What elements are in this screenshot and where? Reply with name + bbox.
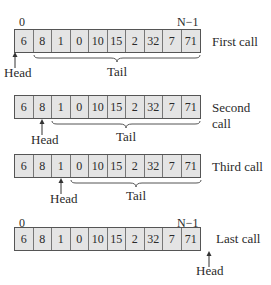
array-cell: 71 — [182, 30, 201, 52]
tail-label: Tail — [107, 64, 127, 80]
head-label: Head — [4, 65, 31, 81]
array: 6 8 1 0 10 15 2 32 7 71 — [14, 227, 201, 251]
panel-last-call: 0 N−1 6 8 1 0 10 15 2 32 7 71 Last call … — [0, 215, 271, 285]
index-start: 0 — [19, 16, 25, 28]
array-cell: 1 — [52, 228, 71, 250]
array-cell: 15 — [108, 228, 127, 250]
array-cell: 32 — [145, 96, 164, 118]
call-label: Third call — [212, 159, 263, 175]
array-cell: 0 — [71, 155, 90, 177]
head-label: Head — [31, 132, 58, 148]
array-cell: 15 — [108, 30, 127, 52]
array-cell: 7 — [163, 30, 182, 52]
array-cell: 10 — [89, 96, 108, 118]
array-cell: 2 — [126, 96, 145, 118]
array-cell: 7 — [163, 228, 182, 250]
array-cell: 2 — [126, 155, 145, 177]
call-label: Last call — [216, 231, 260, 247]
head-label: Head — [50, 191, 77, 207]
array-cell: 2 — [126, 228, 145, 250]
array-cell: 7 — [163, 155, 182, 177]
array-cell: 6 — [15, 30, 34, 52]
array-cell: 1 — [52, 30, 71, 52]
array-cell: 8 — [34, 96, 53, 118]
panel-first-call: 0 N−1 6 8 1 0 10 15 2 32 7 71 First call… — [0, 0, 271, 80]
array: 6 8 1 0 10 15 2 32 7 71 — [14, 95, 201, 119]
array-cell: 10 — [89, 30, 108, 52]
array: 6 8 1 0 10 15 2 32 7 71 — [14, 154, 201, 178]
array-cell: 8 — [34, 30, 53, 52]
array-cell: 0 — [71, 30, 90, 52]
array-cell: 32 — [145, 30, 164, 52]
tail-label: Tail — [116, 129, 136, 145]
array-cell: 0 — [71, 96, 90, 118]
array-cell: 1 — [52, 96, 71, 118]
array-cell: 15 — [108, 155, 127, 177]
array-cell: 2 — [126, 30, 145, 52]
array-cell: 1 — [52, 155, 71, 177]
array-cell: 32 — [145, 228, 164, 250]
index-end: N−1 — [177, 16, 198, 28]
array-cell: 10 — [89, 155, 108, 177]
array-cell: 6 — [15, 96, 34, 118]
array-cell: 71 — [182, 96, 201, 118]
array-cell: 32 — [145, 155, 164, 177]
array-cell: 7 — [163, 96, 182, 118]
array-cell: 15 — [108, 96, 127, 118]
array-cell: 8 — [34, 155, 53, 177]
head-label: Head — [196, 263, 223, 279]
call-label: Second call — [212, 100, 271, 132]
array: 6 8 1 0 10 15 2 32 7 71 — [14, 29, 201, 53]
array-cell: 71 — [182, 228, 201, 250]
tail-label: Tail — [126, 188, 146, 204]
array-cell: 71 — [182, 155, 201, 177]
array-cell: 8 — [34, 228, 53, 250]
panel-second-call: 6 8 1 0 10 15 2 32 7 71 Second call Head… — [0, 80, 271, 150]
call-label: First call — [212, 34, 258, 50]
panel-third-call: 6 8 1 0 10 15 2 32 7 71 Third call Head … — [0, 150, 271, 220]
array-cell: 0 — [71, 228, 90, 250]
array-cell: 10 — [89, 228, 108, 250]
tail-brace-icon — [33, 54, 201, 64]
array-cell: 6 — [15, 155, 34, 177]
array-cell: 6 — [15, 228, 34, 250]
